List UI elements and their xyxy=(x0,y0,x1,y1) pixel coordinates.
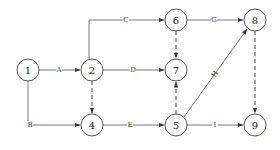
edge-B xyxy=(28,81,80,125)
node-2: 2 xyxy=(81,59,103,81)
node-4: 4 xyxy=(81,114,103,136)
edge-label-A: A xyxy=(55,66,62,74)
edge-label-I: I xyxy=(214,121,217,129)
node-5: 5 xyxy=(165,114,187,136)
edge-label-D: D xyxy=(130,66,136,74)
edge-label-B: B xyxy=(27,121,32,129)
node-label: 9 xyxy=(252,120,258,131)
node-label: 8 xyxy=(252,15,258,26)
node-label: 1 xyxy=(25,65,31,76)
node-6: 6 xyxy=(165,9,187,31)
nodes: 1 2 4 5 6 7 8 9 xyxy=(17,9,266,136)
edge-C xyxy=(89,20,164,59)
network-diagram: A B C D E G H I 1 2 4 5 xyxy=(0,0,280,150)
edge-labels: A B C D E G H I xyxy=(27,16,220,129)
edge-label-H: H xyxy=(210,69,220,79)
node-label: 5 xyxy=(173,120,179,131)
node-1: 1 xyxy=(17,59,39,81)
edge-label-C: C xyxy=(123,16,128,24)
edge-label-G: G xyxy=(211,16,217,24)
node-label: 7 xyxy=(173,65,179,76)
edge-label-E: E xyxy=(127,121,132,129)
node-9: 9 xyxy=(244,114,266,136)
node-8: 8 xyxy=(244,9,266,31)
node-label: 2 xyxy=(89,65,95,76)
node-label: 4 xyxy=(89,120,95,131)
edges xyxy=(28,20,255,125)
node-7: 7 xyxy=(165,59,187,81)
node-label: 6 xyxy=(173,15,179,26)
